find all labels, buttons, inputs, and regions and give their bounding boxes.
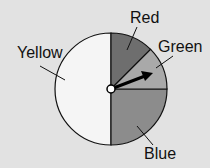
yellow-label: Yellow — [17, 44, 63, 62]
green-label: Green — [158, 38, 202, 56]
spinner-pivot — [107, 85, 115, 93]
blue-sector — [111, 89, 167, 145]
yellow-sector — [55, 33, 111, 145]
spinner-diagram — [0, 0, 210, 168]
red-label: Red — [130, 9, 159, 27]
blue-label: Blue — [144, 145, 176, 163]
